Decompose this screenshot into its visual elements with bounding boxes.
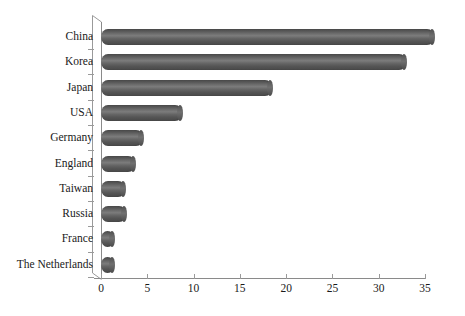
bar-end-cap <box>130 156 136 172</box>
bar-end-cap <box>401 54 407 70</box>
bar-end-cap <box>121 206 127 222</box>
x-axis-line <box>94 278 426 279</box>
y-axis-tick <box>88 74 94 75</box>
y-axis-tick <box>88 201 94 202</box>
x-axis-tick <box>425 274 426 279</box>
bar-end-cap <box>109 257 115 273</box>
bar-end-cap <box>267 80 273 96</box>
y-axis-tick <box>88 226 94 227</box>
y-axis-tick <box>88 176 94 177</box>
bar-the-netherlands <box>101 257 114 273</box>
x-axis-tick-label: 15 <box>225 283 255 295</box>
x-axis-tick <box>332 274 333 279</box>
category-label: France <box>0 233 93 245</box>
category-label: England <box>0 158 93 170</box>
category-label: China <box>0 31 93 43</box>
y-axis-tick <box>88 150 94 151</box>
x-axis-tick-label: 10 <box>179 283 209 295</box>
x-axis-tick-label: 20 <box>271 283 301 295</box>
category-label: USA <box>0 107 93 119</box>
y-axis-tick <box>88 100 94 101</box>
y-axis-tick <box>88 125 94 126</box>
category-label: Korea <box>0 56 93 68</box>
x-axis-tick-label: 0 <box>86 283 116 295</box>
bar-korea <box>101 54 406 70</box>
bar-russia <box>101 206 126 222</box>
category-label: The Netherlands <box>0 259 93 271</box>
bar-england <box>101 156 135 172</box>
bar-taiwan <box>101 181 125 197</box>
bar-usa <box>101 105 182 121</box>
x-axis-tick <box>147 274 148 279</box>
bar-end-cap <box>138 130 144 146</box>
y-axis-tick <box>88 277 94 278</box>
bar-end-cap <box>120 181 126 197</box>
bar-japan <box>101 80 272 96</box>
category-label: Russia <box>0 208 93 220</box>
x-axis-tick-label: 5 <box>132 283 162 295</box>
x-axis-tick-label: 35 <box>410 283 440 295</box>
bar-china <box>101 29 434 45</box>
bar-chart: ChinaKoreaJapanUSAGermanyEnglandTaiwanRu… <box>0 0 465 316</box>
bar-end-cap <box>429 29 435 45</box>
x-axis-tick-label: 30 <box>364 283 394 295</box>
bar-france <box>101 231 114 247</box>
bar-germany <box>101 130 143 146</box>
x-axis-tick <box>240 274 241 279</box>
category-label: Taiwan <box>0 183 93 195</box>
y-axis-tick <box>88 252 94 253</box>
bar-end-cap <box>109 231 115 247</box>
category-label: Germany <box>0 132 93 144</box>
x-axis-tick <box>286 274 287 279</box>
bar-end-cap <box>177 105 183 121</box>
x-axis-tick <box>379 274 380 279</box>
x-axis-tick-label: 25 <box>317 283 347 295</box>
category-label: Japan <box>0 82 93 94</box>
y-axis-tick <box>88 49 94 50</box>
x-axis-tick <box>194 274 195 279</box>
x-axis-tick <box>101 274 102 279</box>
